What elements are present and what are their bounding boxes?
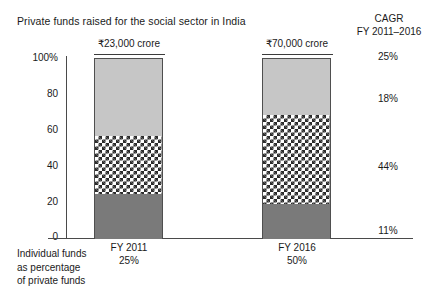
cagr-middle-segment-value: 44% — [358, 161, 418, 172]
y-axis-line — [66, 56, 67, 238]
y-tick-label-0: 0 — [14, 231, 58, 242]
cagr-top-segment-value: 18% — [358, 93, 418, 104]
chart-footnote: Individual funds as percentage of privat… — [17, 247, 147, 288]
y-tick-label-20: 20 — [14, 196, 58, 207]
y-tick-label-60: 60 — [14, 124, 58, 135]
bar-total-label-fy2016: ₹70,000 crore — [227, 38, 367, 49]
cagr-bottom-segment-value: 11% — [358, 225, 418, 236]
chart-footnote-line1: Individual funds — [17, 247, 147, 261]
y-tick-label-40: 40 — [14, 160, 58, 171]
bar-fy2016-bottom-segment — [263, 204, 330, 239]
chart-title: Private funds raised for the social sect… — [17, 15, 246, 27]
stacked-bar-chart: Private funds raised for the social sect… — [0, 0, 428, 303]
bar-fy2011-bottom-segment — [95, 194, 162, 239]
cagr-header: CAGR FY 2011–2016 — [352, 13, 426, 38]
y-tick-label-100: 100% — [14, 52, 58, 63]
bar-fy2016-top-segment — [263, 59, 330, 115]
x-category-fy2016: FY 2016 50% — [227, 241, 367, 267]
bar-fy2016-middle-segment — [263, 115, 330, 204]
bar-total-rule-fy2016 — [262, 54, 333, 55]
x-category-fy2016-sublabel: 50% — [227, 254, 367, 267]
bar-fy2011-top-segment — [95, 59, 162, 136]
cagr-header-line2: FY 2011–2016 — [352, 26, 426, 39]
y-tick-label-80: 80 — [14, 88, 58, 99]
bar-total-label-fy2011: ₹23,000 crore — [59, 38, 199, 49]
bar-fy2011-middle-segment — [95, 136, 162, 194]
bar-total-rule-fy2011 — [94, 54, 165, 55]
chart-footnote-line2: as percentage — [17, 261, 147, 275]
cagr-header-line1: CAGR — [352, 13, 426, 26]
chart-footnote-line3: of private funds — [17, 274, 147, 288]
bar-fy2011 — [94, 58, 163, 238]
x-category-fy2016-label: FY 2016 — [227, 241, 367, 254]
bar-fy2016 — [262, 58, 331, 238]
cagr-total-value: 25% — [358, 51, 418, 62]
